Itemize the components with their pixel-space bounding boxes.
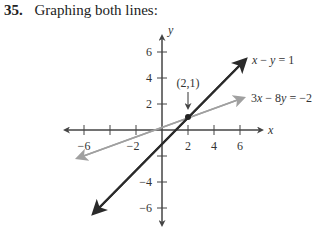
svg-text:−2: −2 [127,139,140,153]
svg-text:−6: −6 [139,201,152,215]
label-line-1: x − y = 1 [251,53,294,67]
intersection-point [185,114,191,120]
svg-text:4: 4 [211,139,217,153]
svg-text:2: 2 [146,97,152,111]
svg-text:−6: −6 [78,139,91,153]
graph: −6 −2 2 4 6 6 4 2 −4 −6 x y (2,1) x − y … [0,0,316,233]
svg-text:−4: −4 [139,175,152,189]
svg-text:6: 6 [237,139,243,153]
x-axis-label: x [267,123,274,137]
intersection-label: (2,1) [177,76,200,90]
y-axis-label: y [167,23,174,37]
label-line-2: 3x − 8y = −2 [251,91,312,105]
svg-text:6: 6 [146,45,152,59]
svg-text:4: 4 [146,71,152,85]
svg-text:2: 2 [185,139,191,153]
